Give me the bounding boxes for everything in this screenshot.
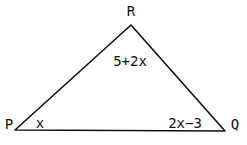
vertex-label-q: Q <box>231 116 239 132</box>
vertex-label-p: P <box>5 116 13 132</box>
angle-label-p: x <box>36 115 44 131</box>
triangle-diagram: R P Q 5+2x x 2x−3 <box>0 0 247 145</box>
angle-label-r: 5+2x <box>113 53 147 69</box>
angle-label-q: 2x−3 <box>168 115 202 131</box>
vertex-label-r: R <box>127 3 136 19</box>
